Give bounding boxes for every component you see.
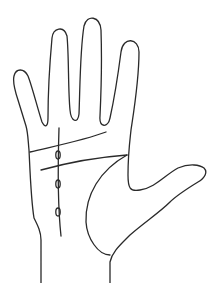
palm-diagram: [0, 0, 216, 283]
heart-line: [30, 132, 106, 152]
life-line: [86, 155, 127, 255]
palm-drawing: [0, 0, 216, 283]
head-line: [41, 155, 127, 170]
hand-outline: [14, 18, 206, 283]
